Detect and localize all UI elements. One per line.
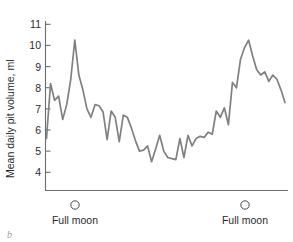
- y-tick-label-9: 9: [35, 61, 41, 73]
- full-moon-label-1: Full moon: [52, 214, 98, 226]
- full-moon-label-2: Full moon: [222, 214, 268, 226]
- data-series-line: [47, 40, 286, 162]
- y-tick-label-8: 8: [35, 82, 41, 94]
- y-tick-label-6: 6: [35, 124, 41, 136]
- y-tick-label-4: 4: [35, 166, 41, 178]
- line-chart: 11 10 9 8 7 6 5 4 Mean daily pit volume,…: [0, 0, 293, 242]
- y-tick-label-7: 7: [35, 103, 41, 115]
- full-moon-marker-2: [241, 201, 249, 209]
- y-tick-label-5: 5: [35, 145, 41, 157]
- panel-letter: b: [7, 229, 12, 240]
- figure-panel-b: 11 10 9 8 7 6 5 4 Mean daily pit volume,…: [0, 0, 293, 242]
- full-moon-marker-1: [71, 201, 79, 209]
- y-axis-title: Mean daily pit volume, ml: [4, 60, 16, 178]
- y-tick-label-11: 11: [30, 18, 41, 30]
- y-tick-label-10: 10: [29, 39, 41, 51]
